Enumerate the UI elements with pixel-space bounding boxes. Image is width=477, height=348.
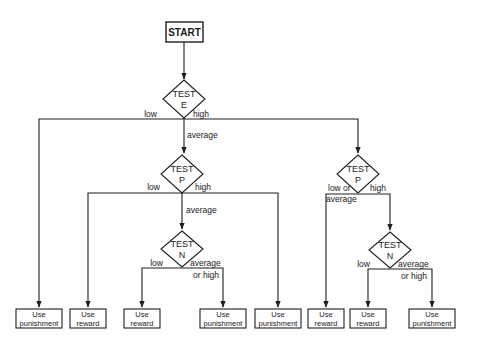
test-n-mid-line1: TEST	[170, 239, 194, 249]
label-p-right-high: high	[370, 183, 386, 193]
label-p-right-low-or: low or	[328, 183, 351, 193]
test-n-right-line1: TEST	[378, 240, 402, 250]
label-e-high: high	[193, 109, 209, 119]
label-e-low: low	[144, 109, 158, 119]
label-p-mid-low: low	[147, 182, 161, 192]
outcome-3-reward: Use reward	[124, 309, 160, 328]
edge-test-n-mid-low	[142, 268, 182, 307]
label-n-mid-average: average	[190, 258, 221, 268]
edge-test-n-right-low	[368, 269, 390, 307]
outcome-2-reward: Use reward	[70, 309, 106, 328]
outcome-6-reward: Use reward	[308, 309, 344, 328]
label-n-mid-or-high: or high	[193, 270, 219, 280]
outcome-4-line2: punishment	[204, 319, 244, 328]
outcome-5-punishment: Use punishment	[255, 309, 301, 328]
test-p-mid-line2: P	[179, 175, 185, 185]
edge-test-e-low	[39, 119, 184, 307]
outcome-7-line2: reward	[357, 319, 380, 328]
outcome-4-punishment: Use punishment	[200, 309, 246, 328]
label-n-mid-low: low	[150, 258, 164, 268]
outcome-8-punishment: Use punishment	[409, 309, 455, 328]
label-p-mid-average: average	[186, 205, 217, 215]
test-e-line2: E	[181, 100, 187, 110]
outcome-1-line2: punishment	[20, 319, 60, 328]
outcome-3-line2: reward	[131, 319, 154, 328]
label-e-average: average	[187, 130, 218, 140]
outcome-8-line2: punishment	[413, 319, 453, 328]
start-label: START	[168, 27, 201, 38]
label-p-right-average: average	[326, 194, 357, 204]
outcome-6-line2: reward	[315, 319, 338, 328]
test-e-line1: TEST	[172, 89, 196, 99]
label-n-right-low: low	[357, 259, 371, 269]
label-n-right-average: average	[398, 259, 429, 269]
test-p-right-line1: TEST	[346, 164, 370, 174]
flowchart: START TEST E low high average TEST P low…	[0, 0, 477, 348]
flowchart-canvas: START TEST E low high average TEST P low…	[0, 0, 477, 348]
test-n-right-line2: N	[387, 251, 394, 261]
test-p-mid-line1: TEST	[170, 164, 194, 174]
outcome-2-line2: reward	[77, 319, 100, 328]
test-n-mid-line2: N	[179, 250, 186, 260]
label-n-right-or-high: or high	[401, 271, 427, 281]
outcome-1-punishment: Use punishment	[16, 309, 62, 328]
start-node: START	[166, 22, 203, 42]
label-p-mid-high: high	[195, 182, 211, 192]
outcome-7-reward: Use reward	[350, 309, 386, 328]
test-p-right-line2: P	[355, 175, 361, 185]
outcome-5-line2: punishment	[259, 319, 299, 328]
edge-test-p-right-high	[358, 194, 390, 230]
edge-test-p-right-low-or-average	[326, 194, 358, 307]
